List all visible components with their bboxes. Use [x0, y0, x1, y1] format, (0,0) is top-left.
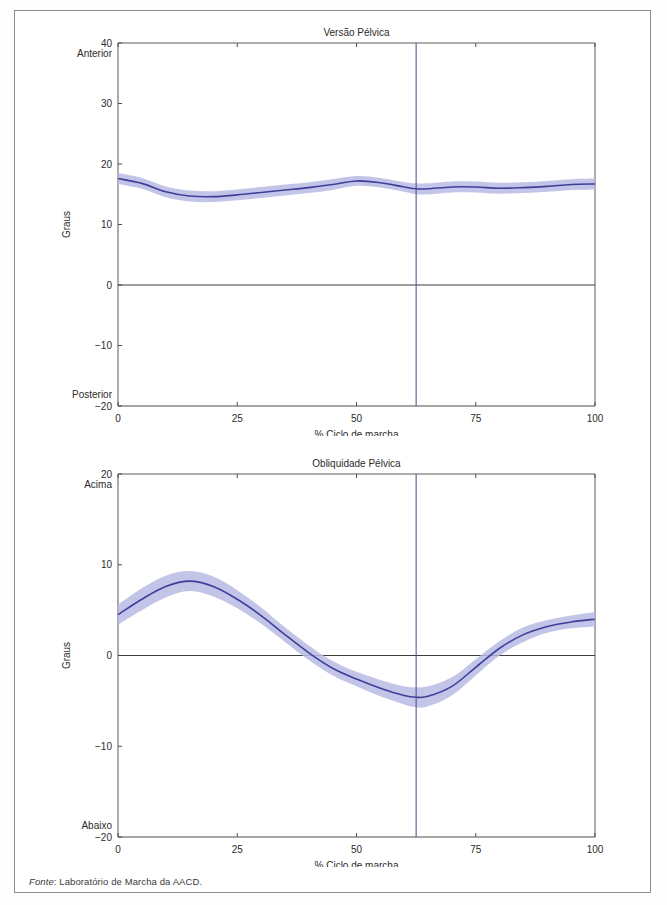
x-tick-label: 0 [115, 413, 121, 424]
y-tick-label: 0 [106, 280, 112, 291]
source-note: Fonte: Laboratório de Marcha da AACD. [29, 876, 202, 887]
y-tick-label: 20 [101, 159, 113, 170]
y-axis-top-annotation: Anterior [77, 48, 113, 59]
y-tick-label: −20 [95, 832, 112, 843]
y-tick-label: −20 [95, 401, 112, 412]
y-axis-bottom-annotation: Posterior [72, 389, 113, 400]
x-tick-label: 25 [232, 844, 244, 855]
document-page: Versão Pélvica−20−10010203040AnteriorPos… [0, 0, 667, 905]
x-tick-label: 100 [587, 413, 604, 424]
chart-title: Versão Pélvica [323, 27, 390, 38]
x-tick-label: 25 [232, 413, 244, 424]
chart-obliquidade-pelvica: Obliquidade Pélvica−20−1001020AcimaAbaix… [0, 447, 667, 867]
x-tick-label: 50 [351, 844, 363, 855]
y-tick-label: 0 [106, 650, 112, 661]
confidence-band [118, 571, 595, 708]
chart-title: Obliquidade Pélvica [312, 458, 401, 469]
x-tick-label: 0 [115, 844, 121, 855]
x-tick-label: 75 [470, 413, 482, 424]
y-tick-label: 40 [101, 38, 113, 49]
chart-canvas-1: Versão Pélvica−20−10010203040AnteriorPos… [0, 16, 667, 436]
y-axis-bottom-annotation: Abaixo [81, 820, 112, 831]
x-axis-label: % Ciclo de marcha [315, 429, 399, 436]
y-tick-label: −10 [95, 340, 112, 351]
x-axis-label: % Ciclo de marcha [315, 860, 399, 867]
chart-canvas-2: Obliquidade Pélvica−20−1001020AcimaAbaix… [0, 447, 667, 867]
y-axis-label: Graus [61, 211, 72, 238]
source-note-label: Fonte [29, 876, 54, 887]
chart-versao-pelvica: Versão Pélvica−20−10010203040AnteriorPos… [0, 16, 667, 436]
source-note-text: : Laboratório de Marcha da AACD. [54, 876, 202, 887]
x-tick-label: 50 [351, 413, 363, 424]
plot-frame [118, 43, 595, 406]
y-tick-label: 20 [101, 469, 113, 480]
x-tick-label: 100 [587, 844, 604, 855]
y-tick-label: −10 [95, 741, 112, 752]
y-tick-label: 10 [101, 559, 113, 570]
y-axis-label: Graus [61, 642, 72, 669]
y-axis-top-annotation: Acima [84, 479, 112, 490]
y-tick-label: 10 [101, 219, 113, 230]
y-tick-label: 30 [101, 98, 113, 109]
x-tick-label: 75 [470, 844, 482, 855]
